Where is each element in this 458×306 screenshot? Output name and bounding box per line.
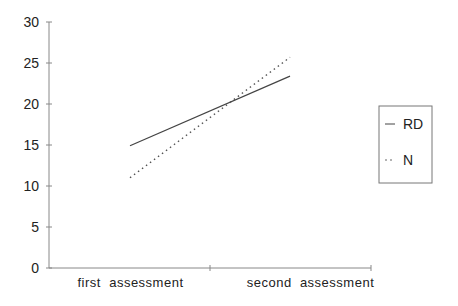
legend-label-n: N: [403, 152, 413, 168]
legend: RD N: [379, 106, 432, 183]
legend-label-rd: RD: [403, 116, 423, 132]
y-tick-label: 25: [23, 55, 39, 71]
x-axis: first assessmentsecond assessment: [49, 265, 374, 290]
y-axis: 051015202530: [23, 14, 52, 276]
x-category-label: second assessment: [247, 275, 375, 290]
series-lines: [130, 57, 290, 178]
y-tick-label: 10: [23, 178, 39, 194]
series-line-n: [130, 57, 290, 178]
y-tick-label: 30: [23, 14, 39, 30]
series-line-rd: [130, 76, 290, 146]
x-category-label: first assessment: [77, 275, 183, 290]
y-tick-label: 20: [23, 96, 39, 112]
y-tick-label: 15: [23, 137, 39, 153]
y-tick-label: 0: [31, 260, 39, 276]
y-tick-label: 5: [31, 219, 39, 235]
line-chart: 051015202530 first assessmentsecond asse…: [0, 0, 458, 306]
